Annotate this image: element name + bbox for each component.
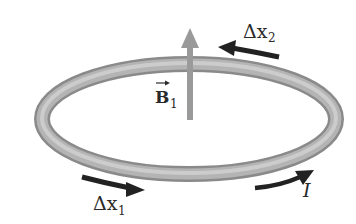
dx1-label: Δx 1: [93, 192, 126, 218]
b-field-label: B 1: [155, 81, 178, 112]
svg-text:1: 1: [118, 204, 126, 218]
current-label: I: [302, 179, 311, 201]
svg-text:B: B: [155, 87, 169, 107]
svg-text:2: 2: [268, 31, 276, 45]
svg-text:Δx: Δx: [243, 20, 268, 42]
svg-text:I: I: [302, 179, 311, 201]
current-loop-diagram: B 1 Δx 2 Δx 1 I: [0, 0, 356, 224]
svg-text:1: 1: [170, 97, 178, 111]
b-field-arrow: [181, 28, 199, 120]
svg-text:Δx: Δx: [93, 192, 118, 214]
dx2-label: Δx 2: [243, 20, 276, 45]
